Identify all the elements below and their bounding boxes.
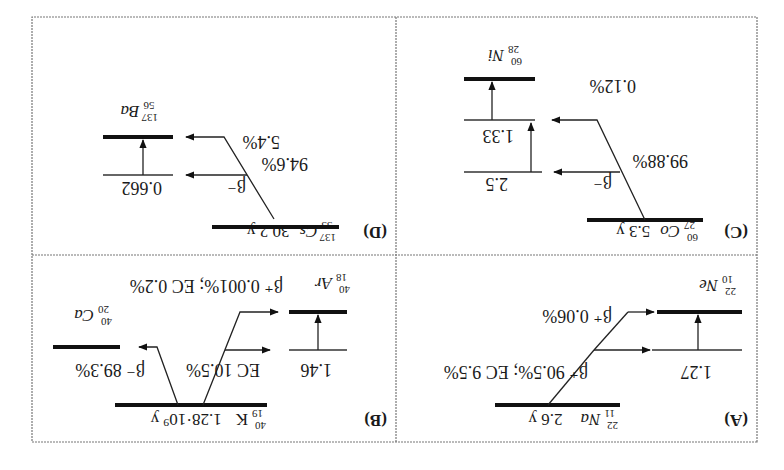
branch-label: β⁻ 89.3% — [75, 360, 145, 380]
branch-label: β⁺ 0.001%; EC 0.2% — [130, 276, 283, 296]
panel-d: (D) 137 55 Cs 30.2 y 0.662 β⁻ 94.6% 5.4%… — [103, 99, 387, 248]
panel-a: (A) 22 11 Na 2.6 y 1.27 β⁺ 90.5%; EC 9.5… — [444, 273, 748, 436]
branch-label: β⁻ — [593, 172, 612, 192]
ba137-label: 137 56 Ba — [121, 99, 158, 128]
cs137-parent-label: 137 55 Cs 30.2 y — [247, 219, 336, 248]
level-energy: 2.5 — [486, 174, 509, 194]
panel-c: (C) 60 27 Co 5.3 y 2.5 1.33 β⁻ 99.88% 0.… — [464, 43, 748, 248]
branch-label: 94.6% — [262, 154, 309, 174]
ne22-label: 22 10 Ne — [699, 273, 736, 302]
branch-label: 5.4% — [243, 132, 281, 152]
arrow-to-ar40-ground — [203, 312, 278, 405]
panel-a-label: (A) — [724, 411, 748, 430]
ni60-label: 60 28 Ni — [488, 43, 522, 72]
ar40-label: 40 18 Ar — [315, 271, 350, 300]
panel-d-label: (D) — [363, 223, 387, 242]
branch-label: β⁺ 0.06% — [542, 306, 612, 326]
arrow-to-ni60-1.33 — [552, 120, 645, 220]
na22-parent-label: 22 11 Na 2.6 y — [528, 407, 618, 436]
level-energy: 1.33 — [483, 126, 515, 146]
panel-b-label: (B) — [364, 411, 387, 430]
panel-c-label: (C) — [724, 223, 748, 242]
level-energy: 1.46 — [301, 360, 333, 380]
panel-b: (B) 40 19 K 1.28·10⁹ y 40 20 Ca 1.46 β⁻ … — [53, 271, 387, 436]
k40-parent-label: 40 19 K 1.28·10⁹ y — [150, 407, 266, 436]
level-energy: 1.27 — [681, 362, 713, 382]
branch-label: EC 10.5% — [186, 360, 260, 380]
branch-label: 0.12% — [590, 76, 637, 96]
branch-label: β⁻ — [227, 176, 246, 196]
branch-label: 99.88% — [633, 151, 689, 171]
level-energy: 0.662 — [122, 178, 163, 198]
decay-scheme-figure: (A) 22 11 Na 2.6 y 1.27 β⁺ 90.5%; EC 9.5… — [0, 0, 784, 470]
branch-label: β⁺ 90.5%; EC 9.5% — [444, 362, 588, 382]
co60-parent-label: 60 27 Co 5.3 y — [616, 219, 698, 248]
ca40-label: 40 20 Ca — [74, 303, 112, 332]
